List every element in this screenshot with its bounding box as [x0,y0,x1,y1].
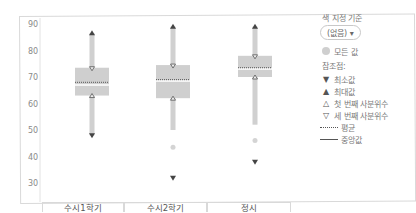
legend-item-q3: ▽ 세 번째 사분위수 [320,109,414,121]
dropdown-value: (없음) [327,29,347,38]
y-axis-ticks: 90807060504030 [28,20,38,188]
triangle-up-icon: ▲ [320,87,332,96]
legend-item-max: ▲ 최대값 [320,85,414,97]
y-tick-label: 50 [28,126,38,135]
y-tick-label: 90 [28,20,38,29]
circle-icon [322,47,330,55]
legend-item-median: 중앙값 [320,133,414,145]
legend-label: 세 번째 사분위수 [334,110,388,121]
color-by-dropdown[interactable]: (없음) ▾ [320,25,361,40]
legend-title: 색 지정 기준 [322,12,414,23]
legend-label: 최소값 [334,74,355,85]
triangle-down-icon: ▼ [320,75,332,84]
y-tick-label: 30 [28,179,38,188]
legend: 색 지정 기준 (없음) ▾ 모든 값 참조점: ▼ 최소값 ▲ 최대값 △ 첫… [320,12,414,145]
triangle-down-outline-icon: ▽ [320,111,332,120]
legend-label: 평균 [341,122,355,133]
solid-line-icon [320,139,338,140]
triangle-up-outline-icon: △ [320,99,332,108]
x-category: 수시2학기 [124,202,207,212]
reference-title: 참조점: [322,60,414,71]
box-1[interactable] [156,24,190,181]
legend-label: 첫 번째 사분위수 [334,98,388,109]
legend-label: 중앙값 [341,134,362,145]
legend-label: 최대값 [334,86,355,97]
x-category: 정시 [207,202,291,212]
y-tick-label: 70 [28,73,38,82]
box-0[interactable] [75,30,109,138]
boxes [75,24,272,181]
y-tick-label: 60 [28,100,38,109]
box-2[interactable] [238,24,272,165]
x-axis-categories: 수시1학기 수시2학기 정시 [42,202,291,212]
x-category: 수시1학기 [42,202,124,212]
y-tick-label: 40 [28,153,38,162]
legend-all-values[interactable]: 모든 값 [320,45,414,57]
legend-item-min: ▼ 최소값 [320,73,414,85]
chevron-down-icon: ▾ [350,29,354,38]
legend-item-q1: △ 첫 번째 사분위수 [320,97,414,109]
y-tick-label: 80 [28,47,38,56]
dotted-line-icon [320,127,338,128]
legend-item-mean: 평균 [320,121,414,133]
legend-label: 모든 값 [334,46,358,57]
